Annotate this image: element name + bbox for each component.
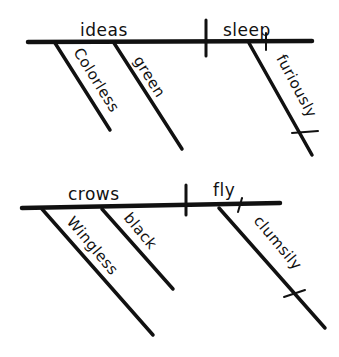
verb-word-2: fly — [213, 180, 235, 200]
sentence-diagram-canvas: ideas sleep Colorless green furiously cr… — [0, 0, 339, 357]
subject-word-2: crows — [68, 184, 120, 204]
diagram-1: ideas sleep Colorless green furiously — [28, 20, 321, 155]
modifier-word-furiously: furiously — [272, 51, 320, 121]
modifier-crossbar-furiously — [292, 131, 318, 133]
modifier-word-black: black — [120, 209, 161, 253]
modifier-word-clumsily: clumsily — [250, 212, 306, 274]
subject-word-1: ideas — [80, 20, 128, 40]
diagram-2: crows fly Wingless black clumsily — [22, 180, 325, 335]
baseline-1 — [28, 41, 312, 42]
verb-word-1: sleep — [223, 20, 271, 40]
